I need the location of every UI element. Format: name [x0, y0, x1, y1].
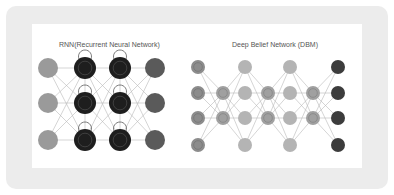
rnn-hidden-node [74, 92, 96, 114]
rnn-output-node [145, 93, 165, 113]
dbn-visible-node [191, 138, 205, 152]
dbn-output-node [331, 86, 345, 100]
dbn-hidden-node [238, 111, 252, 125]
dbn-hidden-node [283, 86, 297, 100]
rnn-input-node [38, 130, 58, 150]
dbn-visible-node [191, 111, 205, 125]
rnn-output-node [145, 58, 165, 78]
dbn-output-node [331, 138, 345, 152]
rnn-input-node [38, 93, 58, 113]
dbn-hidden-node [238, 86, 252, 100]
dbn-hidden-node [306, 111, 320, 125]
rnn-input-node [38, 58, 58, 78]
rnn-hidden-node [109, 129, 131, 151]
rnn-hidden-node [109, 92, 131, 114]
dbn-output-node [331, 60, 345, 74]
rnn-hidden-node [109, 57, 131, 79]
dbn-visible-node [191, 86, 205, 100]
nodes [38, 50, 345, 152]
rnn-hidden-node [74, 129, 96, 151]
dbn-hidden-node [261, 86, 275, 100]
dbn-hidden-node [216, 111, 230, 125]
dbn-visible-node [191, 60, 205, 74]
dbn-hidden-node [283, 111, 297, 125]
dbn-hidden-node [283, 60, 297, 74]
rnn-hidden-node [74, 57, 96, 79]
dbn-hidden-node [216, 86, 230, 100]
dbn-hidden-node [238, 60, 252, 74]
dbn-hidden-node [283, 138, 297, 152]
network-diagrams [0, 0, 394, 195]
dbn-hidden-node [306, 86, 320, 100]
rnn-output-node [145, 130, 165, 150]
dbn-hidden-node [261, 111, 275, 125]
dbn-output-node [331, 111, 345, 125]
dbn-hidden-node [238, 138, 252, 152]
